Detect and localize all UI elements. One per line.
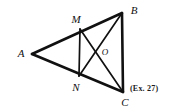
geometry-figure: ABCMNO (Ex. 27): [0, 0, 177, 111]
vertex-label-m: M: [71, 14, 80, 25]
figure-canvas: [0, 0, 177, 111]
segment-bc: [122, 13, 123, 92]
segment-mn: [79, 29, 80, 76]
vertex-label-b: B: [131, 5, 138, 16]
vertex-label-c: C: [121, 97, 128, 108]
figure-caption: (Ex. 27): [130, 85, 158, 93]
vertex-label-o: O: [102, 48, 109, 57]
vertex-label-n: N: [72, 82, 79, 93]
vertex-label-a: A: [18, 48, 25, 59]
